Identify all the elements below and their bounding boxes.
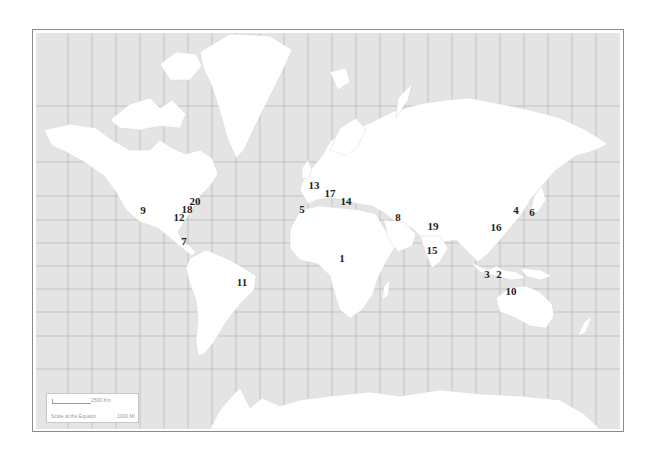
location-marker-7[interactable]: 7 bbox=[181, 236, 187, 247]
location-marker-6[interactable]: 6 bbox=[529, 207, 535, 218]
location-marker-11[interactable]: 11 bbox=[237, 277, 247, 288]
scale-mi-label: 1000 Mi bbox=[117, 413, 135, 419]
location-marker-9[interactable]: 9 bbox=[140, 205, 146, 216]
location-marker-17[interactable]: 17 bbox=[325, 188, 336, 199]
location-marker-5[interactable]: 5 bbox=[299, 204, 305, 215]
location-marker-16[interactable]: 16 bbox=[491, 222, 502, 233]
scale-legend: 2500 Km Scale at the Equator 1000 Mi bbox=[46, 393, 139, 423]
location-marker-4[interactable]: 4 bbox=[513, 205, 519, 216]
world-map[interactable] bbox=[36, 33, 620, 429]
location-marker-15[interactable]: 15 bbox=[427, 245, 438, 256]
location-marker-13[interactable]: 13 bbox=[309, 180, 320, 191]
location-marker-2[interactable]: 2 bbox=[496, 269, 502, 280]
location-marker-8[interactable]: 8 bbox=[395, 212, 401, 223]
location-marker-14[interactable]: 14 bbox=[341, 196, 352, 207]
scale-bar bbox=[52, 399, 91, 404]
scale-km-label: 2500 Km bbox=[91, 397, 111, 403]
location-marker-1[interactable]: 1 bbox=[339, 253, 345, 264]
location-marker-20[interactable]: 20 bbox=[190, 196, 201, 207]
location-marker-3[interactable]: 3 bbox=[484, 269, 490, 280]
scale-note: Scale at the Equator bbox=[51, 413, 96, 419]
location-marker-19[interactable]: 19 bbox=[428, 221, 439, 232]
location-marker-10[interactable]: 10 bbox=[506, 286, 517, 297]
